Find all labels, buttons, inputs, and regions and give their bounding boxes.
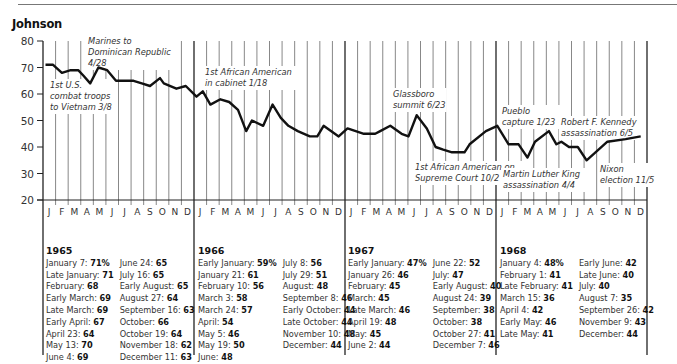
month-label: J — [261, 207, 265, 217]
row-label: April 19: — [348, 317, 385, 327]
month-label: A — [134, 207, 141, 217]
row-label: January 4: — [500, 258, 544, 268]
svg-text:Marines to: Marines to — [88, 36, 132, 46]
row-label: February: — [348, 281, 389, 291]
table-row: May 19: 50 — [198, 340, 277, 352]
svg-text:to Vietnam 3/8: to Vietnam 3/8 — [50, 102, 112, 112]
month-label: J — [47, 207, 51, 217]
table-column: January 4: 48%February 1: 41Late Februar… — [500, 258, 573, 341]
svg-text:Glassboro: Glassboro — [393, 89, 434, 99]
row-value: 63 — [183, 305, 194, 315]
row-value: 64 — [167, 293, 178, 303]
month-label: M — [221, 207, 229, 217]
month-label: M — [523, 207, 531, 217]
y-tick-label: 80 — [21, 35, 34, 47]
table-row: February: 45 — [348, 281, 427, 293]
row-value: 71% — [90, 258, 110, 268]
row-label: July 16: — [120, 270, 153, 280]
y-tick-label: 50 — [21, 115, 34, 127]
table-row: October 19: 64 — [120, 329, 195, 341]
row-label: June 4: — [46, 352, 77, 362]
row-value: 68 — [87, 281, 98, 291]
row-label: January 7: — [46, 258, 90, 268]
event-annotation: Nixonelection 11/5 — [598, 163, 663, 187]
row-label: June 24: — [120, 258, 156, 268]
month-label: M — [372, 207, 380, 217]
row-value: 46 — [545, 317, 556, 327]
svg-text:assassination 6/5: assassination 6/5 — [561, 128, 633, 138]
row-label: Late June: — [579, 270, 623, 280]
table-row: March 15: 36 — [500, 293, 573, 305]
row-label: November 9: — [579, 317, 635, 327]
row-label: February 10: — [198, 281, 253, 291]
row-value: 38 — [483, 305, 494, 315]
svg-text:4/28: 4/28 — [88, 58, 107, 68]
row-label: July 8: — [283, 258, 311, 268]
row-value: 57 — [241, 305, 252, 315]
row-label: March 24: — [198, 305, 241, 315]
y-tick-label: 20 — [21, 194, 34, 206]
month-label: S — [147, 207, 153, 217]
row-label: May 5: — [198, 329, 228, 339]
table-row: Late October: 44 — [283, 317, 356, 329]
row-label: August: — [283, 281, 317, 291]
row-value: 47% — [407, 258, 427, 268]
table-row: June 24: 65 — [120, 258, 195, 270]
row-value: 66 — [158, 317, 169, 327]
table-row: December 11: 63 — [120, 352, 195, 364]
row-value: 44 — [627, 329, 638, 339]
row-value: 45 — [370, 329, 381, 339]
table-column: June 24: 65July 16: 65Early August: 65Au… — [120, 258, 195, 364]
event-annotation: 1st African Americanin cabinet 1/18 — [203, 66, 301, 90]
month-label: F — [59, 207, 64, 217]
table-row: Late June: 40 — [579, 270, 654, 282]
month-label: S — [600, 207, 606, 217]
table-row: August 27: 64 — [120, 293, 195, 305]
table-row: Early March: 69 — [46, 293, 114, 305]
table-row: March 24: 57 — [198, 305, 277, 317]
row-label: Early April: — [46, 317, 93, 327]
table-row: June 2: 44 — [348, 340, 427, 352]
row-label: February: — [46, 281, 87, 291]
table-row: Early June: 42 — [579, 258, 654, 270]
row-value: 41 — [542, 329, 553, 339]
month-label: J — [349, 207, 353, 217]
row-label: Late October: — [283, 317, 341, 327]
month-label: S — [298, 207, 304, 217]
row-label: February 1: — [500, 270, 549, 280]
row-label: March 3: — [198, 293, 236, 303]
row-value: 35 — [621, 293, 632, 303]
row-value: 52 — [469, 258, 480, 268]
month-label: A — [235, 207, 242, 217]
month-label: N — [625, 207, 632, 217]
month-label: A — [386, 207, 393, 217]
y-tick-label: 70 — [21, 62, 34, 74]
row-label: October: — [433, 317, 471, 327]
row-label: September: — [433, 305, 483, 315]
year-table-1967: 1967Early January: 47%January 26: 46Febr… — [348, 245, 501, 352]
svg-text:Nixon: Nixon — [600, 164, 624, 174]
month-label: J — [563, 207, 567, 217]
row-value: 44 — [379, 340, 390, 350]
row-label: September 26: — [579, 305, 643, 315]
row-label: Late January: — [46, 270, 102, 280]
table-row: February 10: 56 — [198, 281, 277, 293]
row-value: 46 — [228, 329, 239, 339]
month-label: A — [436, 207, 443, 217]
month-label: S — [449, 207, 455, 217]
svg-text:assassination 4/4: assassination 4/4 — [503, 180, 575, 190]
row-label: Early June: — [579, 258, 625, 268]
row-value: 69 — [100, 293, 111, 303]
table-row: April: 54 — [198, 317, 277, 329]
row-label: November 10: — [283, 329, 344, 339]
month-label: A — [285, 207, 292, 217]
month-label: M — [398, 207, 406, 217]
table-row: Early August: 40 — [433, 281, 502, 293]
row-value: 46 — [397, 270, 408, 280]
row-value: 64 — [171, 329, 182, 339]
row-label: Late March: — [46, 305, 97, 315]
table-row: October: 38 — [433, 317, 502, 329]
month-label: M — [96, 207, 104, 217]
table-column: January 7: 71%Late January: 71February: … — [46, 258, 114, 364]
row-value: 63 — [180, 352, 191, 362]
